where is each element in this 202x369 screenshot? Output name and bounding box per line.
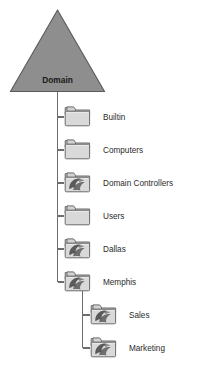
tree-node-sales[interactable]: Sales bbox=[91, 305, 149, 324]
ou-folder-icon bbox=[65, 272, 89, 291]
node-label-builtin: Builtin bbox=[103, 113, 126, 122]
domain-label: Domain bbox=[42, 75, 73, 85]
ou-folder-icon bbox=[91, 305, 115, 324]
connector-group-level-1 bbox=[58, 92, 65, 283]
folder-icon bbox=[65, 140, 89, 159]
node-label-domain-controllers: Domain Controllers bbox=[103, 179, 173, 188]
ou-folder-icon bbox=[91, 338, 115, 357]
node-label-users: Users bbox=[103, 212, 124, 221]
tree-node-builtin[interactable]: Builtin bbox=[65, 107, 126, 126]
tree-node-users[interactable]: Users bbox=[65, 206, 124, 225]
folder-icon bbox=[65, 206, 89, 225]
domain-structure-diagram: Domain Builtin Computers bbox=[0, 0, 202, 369]
connector-group-level-2 bbox=[83, 291, 91, 348]
ou-folder-icon bbox=[65, 239, 89, 258]
tree-node-memphis[interactable]: Memphis bbox=[65, 272, 136, 291]
ou-folder-icon bbox=[65, 173, 89, 192]
node-label-dallas: Dallas bbox=[103, 245, 126, 254]
tree-node-dallas[interactable]: Dallas bbox=[65, 239, 126, 258]
folder-icon bbox=[65, 107, 89, 126]
tree-node-domain-controllers[interactable]: Domain Controllers bbox=[65, 173, 173, 192]
node-label-computers: Computers bbox=[103, 146, 143, 155]
diagram-canvas: Domain Builtin Computers bbox=[0, 0, 202, 369]
node-label-marketing: Marketing bbox=[129, 344, 165, 353]
tree-node-computers[interactable]: Computers bbox=[65, 140, 143, 159]
tree-node-marketing[interactable]: Marketing bbox=[91, 338, 165, 357]
domain-root-node[interactable]: Domain bbox=[11, 10, 105, 92]
node-label-sales: Sales bbox=[129, 311, 149, 320]
node-label-memphis: Memphis bbox=[103, 278, 136, 287]
